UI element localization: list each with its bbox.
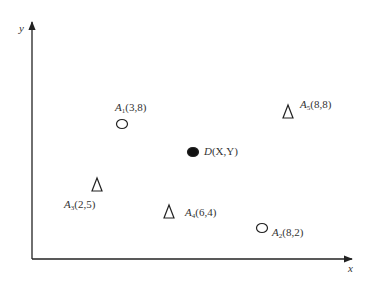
open-circle-icon: [117, 120, 128, 129]
point-coords: (3,8): [125, 101, 146, 113]
point-name: A: [300, 98, 307, 110]
point-label-a3: A3(2,5): [64, 199, 95, 210]
point-label-d: D(X,Y): [204, 146, 238, 157]
point-name: A: [115, 101, 122, 113]
point-coords: (2,5): [74, 198, 95, 210]
point-label-a4: A4(6,4): [185, 207, 216, 218]
point-coords: (8,8): [310, 98, 331, 110]
open-triangle-icon: [92, 178, 102, 191]
point-label-a2: A2(8,2): [272, 227, 303, 238]
point-name: A: [64, 198, 71, 210]
y-axis-label: y: [19, 22, 24, 34]
point-name: D: [204, 145, 212, 157]
point-name: A: [272, 226, 279, 238]
x-axis-label: x: [348, 262, 353, 274]
point-coords: (X,Y): [212, 145, 238, 157]
point-label-a1: A1(3,8): [115, 102, 146, 113]
open-triangle-icon: [164, 205, 174, 218]
diagram-canvas: [0, 0, 376, 286]
open-triangle-icon: [283, 105, 293, 118]
point-label-a5: A5(8,8): [300, 99, 331, 110]
point-name: A: [185, 206, 192, 218]
open-circle-icon: [257, 224, 268, 233]
filled-circle-icon: [188, 148, 199, 157]
point-coords: (8,2): [282, 226, 303, 238]
point-coords: (6,4): [195, 206, 216, 218]
